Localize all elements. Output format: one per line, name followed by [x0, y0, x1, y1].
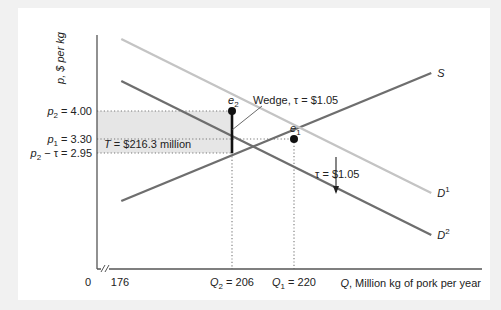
- y-tick-4: p2 = 4.00: [46, 105, 92, 120]
- y-tick-labels: p2 = 4.00p1 = 3.30p2 − τ = 2.95: [30, 105, 92, 162]
- x-tick-labels: 0176Q2 = 206Q1 = 220: [85, 276, 316, 291]
- x-tick-206: Q2 = 206: [210, 276, 254, 291]
- tax-incidence-chart: SD1D2 p, $ per kg Q, Million kg of pork …: [0, 0, 501, 310]
- x-tick-0: 0: [85, 276, 91, 288]
- curve-label-d2: D2: [437, 227, 450, 241]
- x-axis-label: Q, Million kg of pork per year: [340, 277, 481, 289]
- x-axis-label-rest: , Million kg of pork per year: [349, 277, 481, 289]
- tax-shift-label: τ = $1.05: [315, 168, 359, 180]
- tax-revenue-value: = $216.3 million: [111, 138, 191, 150]
- equilibrium-label-e1: e1: [290, 122, 301, 137]
- x-tick-220: Q1 = 220: [272, 276, 316, 291]
- wedge-label: Wedge, τ = $1.05: [253, 94, 338, 106]
- tax-revenue-label: T = $216.3 million: [104, 138, 191, 150]
- y-axis-label: p, $ per kg: [54, 31, 66, 85]
- axis-break-icon: [101, 264, 109, 272]
- curve-label-s: S: [437, 67, 445, 79]
- y-tick-2-95: p2 − τ = 2.95: [30, 147, 92, 162]
- x-tick-176: 176: [111, 276, 129, 288]
- y-tick-3-3: p1 = 3.30: [46, 133, 92, 148]
- wedge-leader-line: [232, 106, 262, 130]
- curve-label-d1: D1: [437, 185, 450, 199]
